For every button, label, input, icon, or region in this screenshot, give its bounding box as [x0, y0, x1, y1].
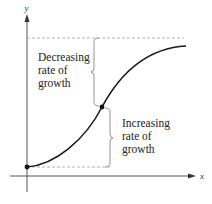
- inflection-point: [100, 105, 105, 110]
- decreasing-line-2: rate of: [38, 64, 68, 76]
- x-axis-arrow-icon: [188, 174, 196, 179]
- x-axis-label: x: [199, 171, 204, 181]
- increasing-rate-label: Increasing rate of growth: [122, 117, 173, 156]
- lower-brace: [105, 108, 113, 167]
- decreasing-line-3: growth: [38, 77, 71, 90]
- increasing-line-2: rate of: [122, 130, 152, 142]
- start-point: [25, 165, 30, 170]
- y-axis-arrow-icon: [25, 14, 30, 22]
- increasing-line-1: Increasing: [122, 117, 170, 130]
- y-axis-label: y: [24, 3, 29, 13]
- decreasing-rate-label: Decreasing rate of growth: [38, 51, 93, 90]
- increasing-line-3: growth: [122, 143, 155, 156]
- growth-curve-diagram: y x Decreasing rate of growth Increasing…: [0, 0, 212, 204]
- upper-brace: [91, 38, 99, 106]
- decreasing-line-1: Decreasing: [38, 51, 90, 64]
